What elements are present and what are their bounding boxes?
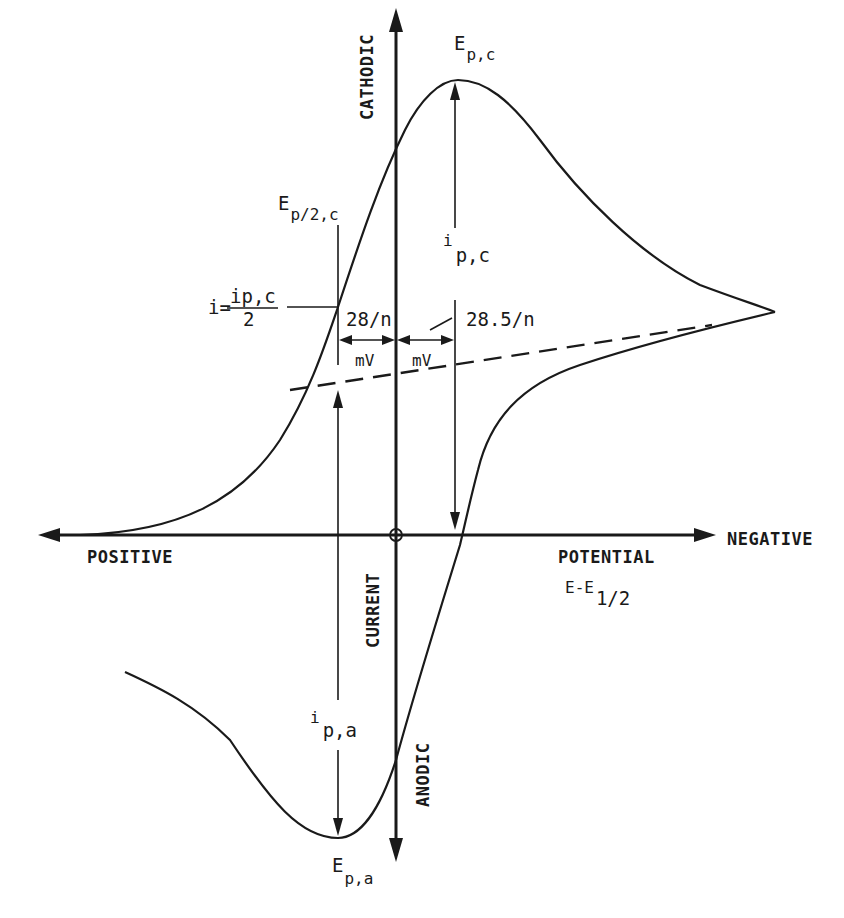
potential-expression: E-E1/2 — [565, 578, 630, 609]
svg-text:i=: i= — [208, 296, 231, 318]
cathodic-peak-potential-label: Ep,c — [454, 32, 495, 64]
right-separation-unit: mV — [412, 351, 432, 370]
svg-text:2: 2 — [243, 308, 254, 330]
arrow-left-icon — [38, 528, 60, 542]
right-separation-arrow — [397, 335, 454, 345]
right-separation-value: 28.5/n — [466, 308, 535, 330]
left-separation-value: 28/n — [346, 308, 392, 330]
reverse-scan-curve — [125, 312, 775, 838]
potential-label: POTENTIAL — [558, 547, 655, 567]
left-separation-unit: mV — [355, 351, 375, 370]
anodic-peak-potential-label: Ep,a — [332, 854, 373, 888]
half-current-equation: i= ip,c 2 — [208, 285, 278, 330]
svg-text:ip,c: ip,c — [230, 285, 276, 307]
half-peak-potential-label: Ep/2,c — [278, 192, 339, 224]
left-separation-arrow — [339, 335, 395, 345]
cathodic-peak-current-label: ip,c — [443, 231, 490, 266]
forward-scan-curve — [80, 80, 775, 535]
baseline-dashed — [290, 325, 712, 390]
arrow-up-icon — [389, 8, 403, 32]
anodic-peak-current-label: ip,a — [310, 708, 357, 741]
anodic-peak-current-marker — [333, 390, 343, 836]
positive-label: POSITIVE — [87, 547, 173, 567]
current-label: CURRENT — [363, 573, 383, 648]
right-separation-leader — [430, 318, 452, 330]
potential-axis — [38, 528, 716, 542]
cathodic-peak-current-marker — [450, 82, 460, 530]
cyclic-voltammogram-diagram: CATHODIC CURRENT ANODIC POSITIVE NEGATIV… — [0, 0, 844, 918]
arrow-right-icon — [694, 528, 716, 542]
cathodic-label: CATHODIC — [357, 34, 377, 120]
arrow-down-icon — [389, 838, 403, 862]
negative-label: NEGATIVE — [727, 529, 813, 549]
anodic-label: ANODIC — [413, 743, 433, 807]
